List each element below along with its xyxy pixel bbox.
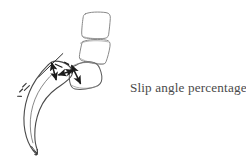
measure-diagonal [72,65,81,83]
vertebra-upper [82,12,111,39]
measure-tick [55,64,62,67]
figure-caption: Slip angle percentage [130,80,242,96]
sacrum-posterior-border [24,65,48,155]
measure-horizontal [58,70,73,75]
hatch-mark-1 [24,86,29,91]
figure-root: Slip angle percentage [0,0,246,167]
sacrum-anterior-border [35,61,73,149]
measure-vertical-shaft [52,63,57,80]
measure-horizontal-shaft [58,70,73,75]
measure-diagonal-shaft [72,65,81,83]
measure-vertical [52,63,57,80]
vertebra-slipped-outline [69,62,101,90]
hatch-marks [18,83,30,96]
reference-line-stroke [39,54,63,77]
vertebra-slipped [69,62,101,90]
sacrum [24,61,72,155]
vertebra-middle [79,39,110,64]
hatch-mark-2 [23,83,27,87]
hatch-mark-3 [20,89,23,92]
vertebra-upper-outline [82,12,111,39]
reference-line [39,54,63,77]
